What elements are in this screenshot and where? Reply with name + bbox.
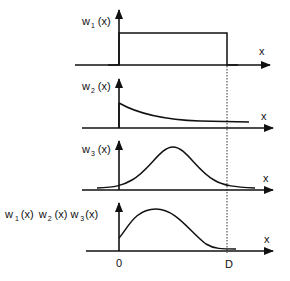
ylabel-w1: w1(x) [81, 15, 111, 29]
ylabel-w3: w3(x) [81, 143, 111, 157]
curve-product [119, 209, 236, 249]
panel-w2: w2(x) x [81, 79, 273, 128]
window-functions-diagram: w1(x) x w2(x) x w3(x) x w1(x)w2(x)w3(x) … [0, 0, 290, 281]
xlabel-w1: x [259, 45, 265, 57]
panel-w3: w3(x) x [81, 141, 273, 190]
tick-origin: 0 [116, 257, 122, 269]
tick-d: D [225, 258, 233, 270]
panel-product: w1(x)w2(x)w3(x) x 0 D [4, 203, 273, 270]
xlabel-w3: x [263, 172, 269, 184]
curve-w2 [119, 103, 249, 122]
curve-w1 [108, 33, 238, 65]
ylabel-product: w1(x)w2(x)w3(x) [4, 208, 98, 222]
xlabel-w2: x [261, 110, 267, 122]
panel-w1: w1(x) x [75, 10, 270, 65]
curve-w3 [97, 147, 255, 188]
xlabel-product: x [264, 233, 270, 245]
ylabel-w2: w2(x) [81, 80, 111, 94]
